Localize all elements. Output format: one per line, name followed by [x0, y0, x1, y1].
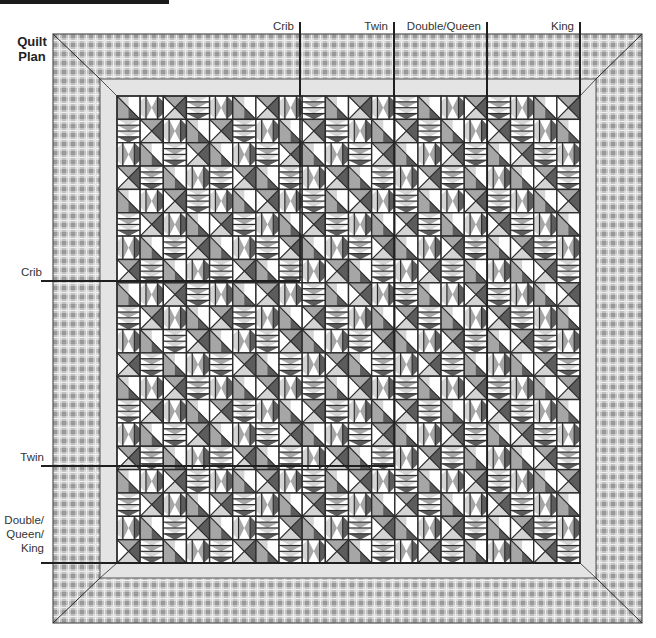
pieced-field	[117, 96, 580, 563]
quilt-diagram	[0, 0, 656, 638]
